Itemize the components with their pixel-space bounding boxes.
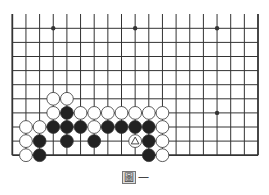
black-stone [142,121,155,134]
star-point [215,111,219,115]
white-stone [74,107,87,120]
go-board [0,0,269,165]
white-stone [156,149,169,162]
white-stone [47,92,60,105]
black-stone [101,121,114,134]
white-stone [156,121,169,134]
black-stone [142,135,155,148]
white-stone [20,121,33,134]
black-stone [61,135,74,148]
white-stone [142,107,155,120]
white-stone [88,121,101,134]
black-stone [115,121,128,134]
black-stone [33,149,46,162]
star-point [51,26,55,30]
white-stone [47,107,60,120]
white-stone [88,107,101,120]
black-stone [88,135,101,148]
black-stone [61,107,74,120]
white-stone [156,135,169,148]
figure-caption: 圖 一 [122,170,149,184]
white-stone [129,107,142,120]
star-point [215,26,219,30]
black-stone [61,121,74,134]
black-stone [33,135,46,148]
white-stone [61,92,74,105]
white-stone [156,107,169,120]
caption-boxed-char: 圖 [122,171,136,184]
black-stone [142,149,155,162]
star-point [133,26,137,30]
black-stone [47,121,60,134]
white-stone [20,149,33,162]
white-stone [115,107,128,120]
white-stone [33,121,46,134]
caption-number: 一 [138,169,149,185]
white-stone [20,135,33,148]
white-stone [101,107,114,120]
black-stone [74,121,87,134]
black-stone [129,121,142,134]
